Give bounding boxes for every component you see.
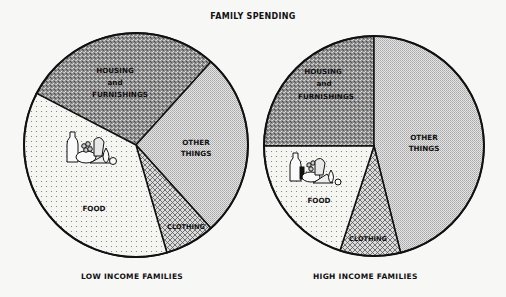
label-low-housing-3: FURNISHINGS [92,90,148,99]
label-high-housing-1: HOUSING [304,67,342,76]
pie-charts: HOUSING and FURNISHINGS OTHER THINGS FOO… [0,0,506,297]
label-low-housing-2: and [107,78,122,87]
caption-low-income: LOW INCOME FAMILIES [81,272,183,281]
pie-high-income: HOUSING and FURNISHINGS OTHER THINGS FOO… [264,36,484,256]
label-low-housing-1: HOUSING [96,66,134,75]
label-high-other-2: THINGS [409,144,440,153]
label-low-clothing: CLOTHING [167,223,205,231]
label-high-clothing: CLOTHING [349,235,387,243]
label-low-other-1: OTHER [182,138,210,147]
label-high-other-1: OTHER [410,133,438,142]
label-high-food: FOOD [307,196,330,205]
caption-high-income: HIGH INCOME FAMILIES [313,272,418,281]
label-high-housing-2: and [316,79,331,88]
label-high-housing-3: FURNISHINGS [298,92,354,101]
label-low-other-2: THINGS [181,149,212,158]
slice-high-housing [264,36,374,146]
label-low-food: FOOD [82,204,105,213]
pie-low-income: HOUSING and FURNISHINGS OTHER THINGS FOO… [24,33,248,257]
